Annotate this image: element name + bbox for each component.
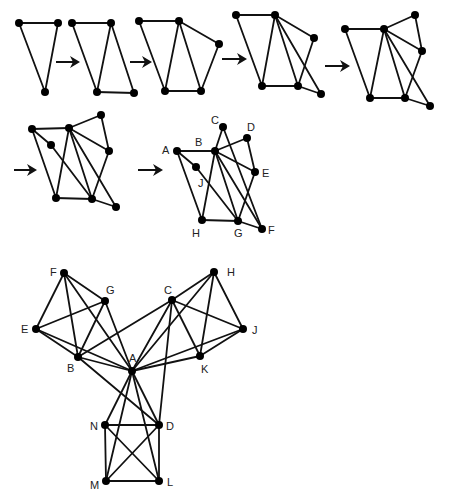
node-1 — [68, 19, 76, 27]
node-C — [168, 296, 176, 304]
node-label-H: H — [192, 227, 200, 239]
node-J — [239, 325, 247, 333]
node-1 — [232, 11, 240, 19]
node-label-A: A — [129, 352, 137, 364]
edge-B-H — [56, 128, 69, 198]
node-4 — [294, 82, 302, 90]
edge-H-J — [214, 272, 243, 329]
node-label-F: F — [268, 224, 275, 236]
edge-A-B — [32, 128, 69, 129]
edge-H-G — [202, 220, 238, 221]
edge-1-3 — [345, 29, 370, 98]
node-G — [101, 297, 109, 305]
node-L — [155, 477, 163, 485]
node-label-E: E — [262, 167, 269, 179]
edge-1-3 — [72, 23, 97, 92]
edge-2-7 — [384, 15, 415, 29]
node-A — [173, 147, 181, 155]
node-A — [128, 367, 136, 375]
edge-E-D — [101, 115, 109, 151]
node-K — [196, 352, 204, 360]
node-H — [210, 268, 218, 276]
node-H — [198, 216, 206, 224]
node-D — [155, 421, 163, 429]
edge-F-G — [64, 273, 105, 301]
node-label-G: G — [106, 284, 115, 296]
graphs-layer: ABCDEJHGFABCDEFGHJKNML — [15, 11, 434, 491]
node-4 — [401, 94, 409, 102]
graph-step-4 — [232, 11, 325, 98]
edge-A-M — [106, 371, 132, 481]
edge-N-M — [105, 425, 106, 481]
edge-1-3 — [19, 23, 45, 92]
node-3 — [161, 87, 169, 95]
node-4 — [197, 87, 205, 95]
graph-step-1 — [15, 19, 62, 96]
node-N — [101, 421, 109, 429]
step-arrow-icon — [325, 60, 350, 72]
node-label-J: J — [198, 177, 204, 189]
node-1 — [341, 25, 349, 33]
node-E — [251, 168, 259, 176]
edge-E-D — [247, 138, 255, 172]
edge-2-3 — [45, 23, 58, 92]
edge-A-L — [132, 371, 159, 481]
graph-construction-diagram: ABCDEJHGFABCDEFGHJKNML — [0, 0, 452, 500]
node-M — [102, 477, 110, 485]
node-B — [211, 147, 219, 155]
node-5 — [310, 34, 318, 42]
node-2 — [380, 25, 388, 33]
node-label-L: L — [167, 476, 173, 488]
edge-E-B — [36, 329, 78, 357]
node-3 — [366, 94, 374, 102]
node-label-B: B — [195, 136, 202, 148]
node-2 — [175, 17, 183, 25]
edge-B-D — [69, 115, 101, 128]
node-J — [47, 141, 55, 149]
step-arrow-icon — [138, 164, 163, 176]
edge-F-E — [36, 273, 64, 329]
graph-step-5 — [341, 11, 434, 110]
node-A — [28, 125, 36, 133]
node-label-D: D — [166, 420, 174, 432]
edge-2-3 — [165, 21, 179, 91]
node-C — [219, 123, 227, 131]
node-7 — [411, 11, 419, 19]
edge-J-G — [196, 167, 238, 221]
node-label-N: N — [90, 420, 98, 432]
node-label-A: A — [162, 144, 170, 156]
node-1 — [15, 19, 23, 27]
node-E — [105, 147, 113, 155]
node-5 — [418, 47, 426, 55]
node-F — [112, 203, 120, 211]
node-label-F: F — [50, 266, 57, 278]
graph-step-7: ABCDEJHGF — [162, 114, 275, 239]
edge-2-3 — [262, 15, 275, 86]
node-label-C: C — [211, 114, 219, 126]
node-3 — [258, 82, 266, 90]
node-D — [97, 111, 105, 119]
node-G — [88, 195, 96, 203]
node-label-E: E — [21, 323, 28, 335]
edge-5-7 — [415, 15, 422, 51]
node-label-M: M — [90, 479, 99, 491]
node-D — [243, 134, 251, 142]
node-label-B: B — [67, 362, 74, 374]
node-B — [65, 124, 73, 132]
edge-C-F — [223, 127, 262, 229]
edge-H-G — [56, 198, 92, 199]
node-2 — [107, 19, 115, 27]
edge-4-5 — [405, 51, 422, 98]
node-G — [234, 217, 242, 225]
graph-step-2 — [68, 19, 138, 97]
graph-full-graph: ABCDEFGHJKNML — [21, 266, 258, 491]
node-1 — [135, 17, 143, 25]
node-3 — [41, 88, 49, 96]
edge-2-4 — [111, 23, 134, 93]
step-arrow-icon — [130, 56, 152, 68]
node-label-H: H — [227, 266, 235, 278]
edge-2-3 — [97, 23, 111, 92]
edge-2-3 — [370, 29, 384, 98]
graph-step-6 — [28, 111, 120, 211]
edge-C-H — [172, 272, 214, 300]
